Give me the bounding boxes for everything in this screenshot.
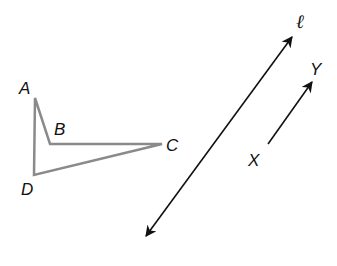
point-label-y: Y [310, 60, 323, 79]
line-label-l: ℓ [296, 10, 304, 32]
vertex-label-c: C [166, 136, 179, 155]
vertex-label-b: B [54, 120, 65, 139]
point-label-x: X [247, 151, 260, 170]
vertex-label-a: A [18, 79, 30, 98]
ray-xy [268, 82, 312, 144]
geometry-diagram: A B C D ℓ X Y [0, 0, 337, 266]
vertex-label-d: D [21, 180, 33, 199]
